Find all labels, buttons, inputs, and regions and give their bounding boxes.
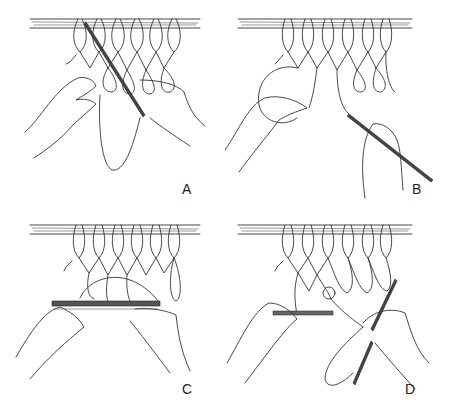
- netting-illustration-a: [0, 0, 224, 203]
- mesh-loops: [64, 225, 180, 301]
- netting-illustration-c: [0, 203, 224, 406]
- right-hand: [363, 310, 429, 389]
- mesh-gauge: [273, 311, 333, 315]
- panel-b: B: [225, 0, 449, 203]
- mesh-loops: [258, 19, 395, 123]
- netting-needle: [84, 22, 145, 117]
- left-hand: [225, 97, 307, 172]
- panel-label-a: A: [182, 181, 191, 197]
- netting-illustration-b: [225, 0, 449, 203]
- panel-d: D: [225, 203, 449, 406]
- right-hand: [363, 124, 403, 198]
- mesh-loops: [66, 19, 180, 170]
- panel-label-c: C: [182, 381, 192, 397]
- panel-a: A: [0, 0, 224, 203]
- netting-needle: [347, 114, 433, 182]
- left-hand: [16, 307, 84, 379]
- netting-illustration-d: [225, 203, 449, 406]
- panel-label-d: D: [405, 381, 415, 397]
- panel-label-b: B: [412, 181, 421, 197]
- netting-needle: [353, 279, 397, 385]
- right-hand: [130, 308, 190, 373]
- panel-c: C: [0, 203, 224, 406]
- mesh-gauge: [52, 301, 160, 309]
- left-hand: [25, 77, 96, 158]
- mesh-loops: [275, 225, 392, 385]
